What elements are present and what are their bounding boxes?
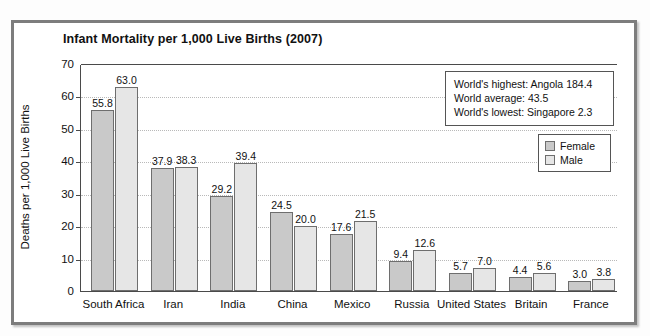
bar-value-label: 37.9 [152,155,172,167]
bar-value-label: 63.0 [116,74,136,86]
y-axis-tick-label: 10 [40,253,74,265]
bar-male[interactable]: 12.6 [413,250,436,291]
bar-female[interactable]: 5.7 [449,273,472,291]
y-axis-tick-label: 60 [40,90,74,102]
bar-male[interactable]: 7.0 [473,268,496,291]
x-axis-tick-label: France [573,298,609,310]
bar-value-label: 17.6 [331,221,351,233]
legend-item[interactable]: Female [545,139,604,153]
y-axis-tick-label: 70 [40,58,74,70]
bar-female[interactable]: 55.8 [91,110,114,291]
bar-value-label: 55.8 [92,97,112,109]
bar-female[interactable]: 9.4 [389,261,412,291]
bar-value-label: 39.4 [236,150,256,162]
bar-value-label: 29.2 [212,183,232,195]
chart-root: Infant Mortality per 1,000 Live Births (… [0,0,650,336]
bar-female[interactable]: 17.6 [330,234,353,291]
bar-female[interactable]: 3.0 [568,281,591,291]
bar-female[interactable]: 4.4 [509,277,532,291]
bar-male[interactable]: 5.6 [533,273,556,291]
bar-value-label: 5.6 [537,260,552,272]
bar-value-label: 24.5 [271,199,291,211]
chart-frame: Infant Mortality per 1,000 Live Births (… [11,20,637,325]
y-axis-tick-label: 20 [40,220,74,232]
bar-female[interactable]: 37.9 [151,168,174,291]
bar-female[interactable]: 24.5 [270,212,293,291]
bar-value-label: 20.0 [295,213,315,225]
bar-group: 17.621.5 [330,65,377,291]
bar-value-label: 7.0 [477,255,492,267]
legend-swatch-icon [545,141,555,151]
bar-value-label: 5.7 [453,260,468,272]
annotation-line: World's highest: Angola 184.4 [454,77,605,91]
bar-male[interactable]: 21.5 [354,221,377,291]
bar-value-label: 21.5 [355,208,375,220]
bar-value-label: 12.6 [415,237,435,249]
bar-group: 24.520.0 [270,65,317,291]
y-axis-tick-label: 30 [40,188,74,200]
y-axis-title: Deaths per 1,000 Live Births [19,52,31,302]
legend-swatch-icon [545,155,555,165]
bar-female[interactable]: 29.2 [210,196,233,291]
bar-value-label: 3.0 [573,268,588,280]
x-axis-tick-label: Iran [163,298,183,310]
bar-group: 9.412.6 [389,65,436,291]
annotation-line: World's lowest: Singapore 2.3 [454,105,605,119]
x-axis-tick-label: Russia [394,298,429,310]
annotation-line: World average: 43.5 [454,91,605,105]
x-axis-tick-label: Britain [515,298,548,310]
bar-male[interactable]: 20.0 [294,226,317,291]
x-axis-tick-label: Mexico [334,298,370,310]
legend-label: Male [560,153,583,167]
y-axis-tick-label: 40 [40,155,74,167]
bar-male[interactable]: 3.8 [592,279,615,291]
page-title: Infant Mortality per 1,000 Live Births (… [63,32,322,46]
annotation-box: World's highest: Angola 184.4World avera… [445,71,614,126]
bar-value-label: 4.4 [513,264,528,276]
bar-group: 55.863.0 [91,65,138,291]
bar-value-label: 9.4 [394,248,409,260]
bar-value-label: 38.3 [176,154,196,166]
legend-label: Female [560,139,595,153]
x-axis-tick-label: United States [437,298,506,310]
y-axis-tick-label: 0 [40,285,74,297]
x-axis-tick-label: India [220,298,245,310]
x-axis-tick-label: China [277,298,307,310]
bar-male[interactable]: 39.4 [234,163,257,291]
y-axis-tick-label: 50 [40,123,74,135]
bar-group: 29.239.4 [210,65,257,291]
chart-legend: FemaleMale [538,134,611,172]
bar-group: 37.938.3 [151,65,198,291]
bar-male[interactable]: 63.0 [115,87,138,291]
legend-item[interactable]: Male [545,153,604,167]
x-axis-tick-label: South Africa [82,298,144,310]
bar-male[interactable]: 38.3 [175,167,198,291]
bar-value-label: 3.8 [597,266,612,278]
